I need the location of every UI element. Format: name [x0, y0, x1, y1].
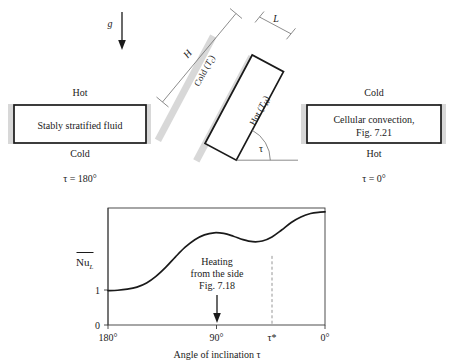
height-dimension-line: [163, 14, 237, 103]
left-panel-group: Hot Stably stratified fluid Cold τ = 180…: [8, 87, 151, 184]
right-panel-box-text-line2: Fig. 7.21: [356, 127, 392, 138]
inclination-angle-symbol: τ: [259, 143, 263, 154]
height-dimension-tick-top: [230, 9, 242, 19]
tilted-panel-enclosure: [205, 55, 284, 160]
chart-xtick-label-0: 0°: [321, 332, 330, 343]
right-panel-bottom-label: Hot: [367, 148, 382, 159]
chart-y-axis-title: NuL: [76, 253, 94, 272]
left-panel-box-text: Stably stratified fluid: [38, 120, 123, 131]
thickness-dimension-tick-right: [287, 28, 296, 39]
chart-y-axis-subscript: L: [88, 263, 93, 271]
chart-xtick-label-90: 90°: [210, 332, 224, 343]
gravity-label: g: [108, 18, 113, 29]
chart-ytick-label-1: 1: [95, 285, 100, 296]
chart-xtick-label-180: 180°: [99, 332, 118, 343]
gravity-arrow-head: [118, 40, 126, 50]
chart-y-axis-symbol: Nu: [76, 256, 90, 268]
thickness-label: L: [272, 13, 279, 24]
tilted-panel-group: H L Cold (Tc) Hot (TH) τ: [155, 9, 298, 163]
thickness-dimension: L: [255, 12, 296, 40]
gravity-indicator: g: [108, 12, 126, 50]
right-panel-top-label: Cold: [364, 87, 383, 98]
thickness-dimension-tick-left: [255, 12, 264, 23]
height-label: H: [180, 47, 194, 61]
right-panel-box-text-line1: Cellular convection,: [333, 114, 414, 125]
right-panel-group: Cold Cellular convection, Fig. 7.21 Hot …: [301, 87, 446, 184]
left-panel-angle-label: τ = 180°: [63, 173, 97, 184]
left-panel-bottom-label: Cold: [70, 148, 89, 159]
inclined-enclosure-figure: g Hot Stably stratified fluid Cold τ = 1…: [0, 0, 452, 364]
chart-annotation-line1: Heating: [201, 256, 233, 267]
chart-y-axis-title-text: NuL: [76, 256, 93, 271]
chart-x-axis-title: Angle of inclination τ: [173, 349, 260, 360]
chart-ytick-label-0: 0: [95, 320, 100, 331]
chart-xtick-label-taustar: τ*: [267, 332, 276, 343]
right-panel-angle-label: τ = 0°: [362, 173, 386, 184]
chart-annotation-line3: Fig. 7.18: [199, 280, 235, 291]
chart-annotation-line2: from the side: [191, 268, 244, 279]
left-panel-top-label: Hot: [73, 87, 88, 98]
height-dimension-tick-bottom: [157, 97, 169, 107]
nusselt-chart: 0 1 NuL 180° 90° τ* 0° Heating from the …: [76, 208, 330, 360]
